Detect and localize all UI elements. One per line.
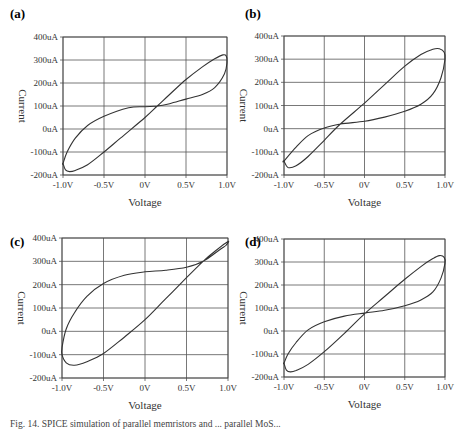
x-tick-label: -1.0V <box>52 383 73 393</box>
y-tick-label: -100uA <box>252 147 280 157</box>
y-tick-label: -100uA <box>31 147 59 157</box>
y-tick-label: 300uA <box>255 257 280 267</box>
y-tick-label: 100uA <box>34 101 59 111</box>
x-tick-label: 0V <box>140 180 152 190</box>
y-tick-label: 300uA <box>33 256 58 266</box>
x-tick-label: -1.0V <box>274 382 295 392</box>
panel-label: (c) <box>10 234 24 249</box>
x-tick-label: 1.0V <box>436 382 454 392</box>
y-tick-label: 200uA <box>255 280 280 290</box>
panel-label: (a) <box>10 6 25 21</box>
x-tick-label: 1.0V <box>218 180 236 190</box>
x-tick-label: -1.0V <box>274 180 295 190</box>
x-tick-label: 0.5V <box>396 382 414 392</box>
y-axis-title: Current <box>16 291 28 325</box>
x-tick-label: -0.5V <box>314 382 335 392</box>
y-tick-label: 300uA <box>255 54 280 64</box>
y-tick-label: 100uA <box>33 303 58 313</box>
x-tick-label: -0.5V <box>93 383 114 393</box>
y-tick-label: -100uA <box>30 350 58 360</box>
x-tick-label: -0.5V <box>94 180 115 190</box>
x-tick-label: 0.5V <box>178 383 196 393</box>
y-tick-label: 200uA <box>255 77 280 87</box>
y-tick-label: 0uA <box>264 124 280 134</box>
x-tick-label: 0V <box>359 180 371 190</box>
x-axis-title: Voltage <box>348 398 382 410</box>
x-tick-label: 1.0V <box>436 180 454 190</box>
y-tick-label: 200uA <box>34 78 59 88</box>
y-tick-label: 0uA <box>42 326 58 336</box>
x-tick-label: 0V <box>359 382 371 392</box>
y-axis-title: Current <box>238 291 250 325</box>
y-tick-label: 0uA <box>43 124 59 134</box>
y-tick-label: 100uA <box>255 303 280 313</box>
x-tick-label: 1.0V <box>219 383 237 393</box>
y-axis-title: Current <box>17 89 29 123</box>
y-tick-label: -100uA <box>252 349 280 359</box>
x-tick-label: 0.5V <box>396 180 414 190</box>
y-tick-label: 400uA <box>255 31 280 41</box>
y-tick-label: 100uA <box>255 101 280 111</box>
y-axis-title: Current <box>238 89 250 123</box>
y-tick-label: 400uA <box>34 32 59 42</box>
figure-caption: Fig. 14. SPICE simulation of parallel me… <box>10 419 281 429</box>
x-tick-label: -1.0V <box>53 180 74 190</box>
x-axis-title: Voltage <box>128 196 162 208</box>
y-tick-label: 0uA <box>264 326 280 336</box>
x-tick-label: 0V <box>140 383 152 393</box>
x-axis-title: Voltage <box>348 196 382 208</box>
y-tick-label: 200uA <box>33 280 58 290</box>
x-tick-label: -0.5V <box>314 180 335 190</box>
y-tick-label: -200uA <box>252 170 280 180</box>
y-tick-label: -200uA <box>31 170 59 180</box>
y-tick-label: 400uA <box>33 233 58 243</box>
x-axis-title: Voltage <box>128 399 162 411</box>
y-tick-label: 300uA <box>34 55 59 65</box>
y-tick-label: -200uA <box>30 373 58 383</box>
y-tick-label: 400uA <box>255 234 280 244</box>
panel-label: (b) <box>245 6 261 21</box>
iv-curve-b <box>283 48 445 167</box>
figure: (a)400uA300uA200uA100uA0uA-100uA-200uA-1… <box>0 0 468 429</box>
x-tick-label: 0.5V <box>177 180 195 190</box>
y-tick-label: -200uA <box>252 372 280 382</box>
